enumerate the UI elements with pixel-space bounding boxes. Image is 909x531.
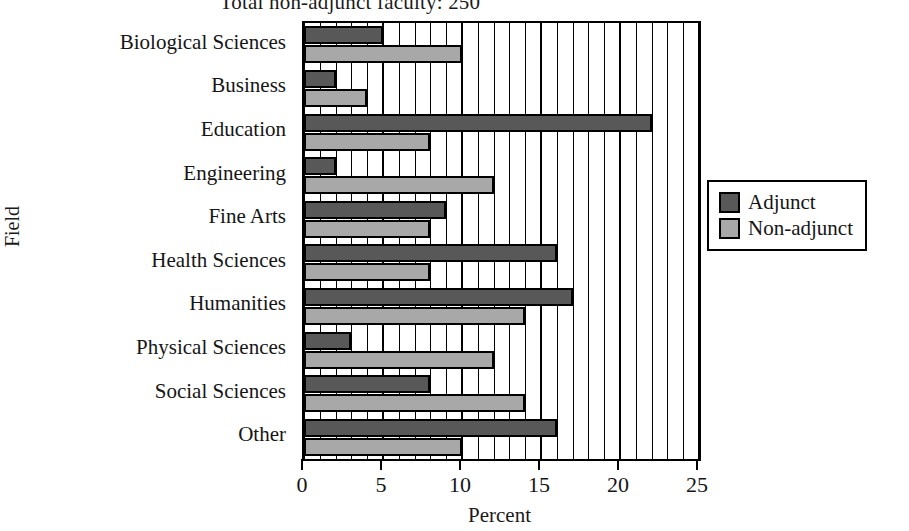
bar-non-adjunct [304, 307, 525, 325]
x-axis-tick-label: 5 [351, 472, 411, 498]
bar-adjunct [304, 114, 652, 132]
x-axis-tick-label: 25 [667, 472, 727, 498]
bar-non-adjunct [304, 394, 525, 412]
bar-adjunct [304, 332, 351, 350]
y-axis-tick-label: Other [30, 424, 286, 445]
bar-chart: Total non-adjunct faculty: 250 Field Bio… [0, 0, 909, 531]
bar-adjunct [304, 26, 383, 44]
x-axis-tick [696, 459, 698, 470]
x-axis-tick-label: 10 [430, 472, 490, 498]
bar-non-adjunct [304, 220, 430, 238]
bar-non-adjunct [304, 133, 430, 151]
y-axis-tick-label: Physical Sciences [30, 337, 286, 358]
y-axis-category-labels: Biological SciencesBusinessEducationEngi… [30, 21, 294, 457]
x-axis-tick-label: 0 [272, 472, 332, 498]
chart-title: Total non-adjunct faculty: 250 [0, 0, 700, 15]
y-axis-tick-label: Social Sciences [30, 381, 286, 402]
bar-non-adjunct [304, 176, 494, 194]
x-axis-title: Percent [302, 503, 697, 528]
y-axis-tick-label: Fine Arts [30, 206, 286, 227]
legend-label: Adjunct [748, 192, 816, 213]
legend-swatch-icon [719, 192, 740, 213]
bar-non-adjunct [304, 263, 430, 281]
x-axis: Percent 0510152025 [302, 459, 697, 519]
bar-non-adjunct [304, 351, 494, 369]
y-axis-tick-label: Humanities [30, 293, 286, 314]
y-axis-tick-label: Engineering [30, 163, 286, 184]
bar-adjunct [304, 288, 573, 306]
bar-adjunct [304, 419, 557, 437]
legend-item: Adjunct [719, 189, 853, 215]
bar-non-adjunct [304, 438, 462, 456]
bar-adjunct [304, 201, 446, 219]
legend-label: Non-adjunct [748, 218, 853, 239]
plot-area [302, 21, 701, 461]
bars-layer [304, 23, 699, 459]
bar-non-adjunct [304, 89, 367, 107]
y-axis-tick-label: Business [30, 75, 286, 96]
y-axis-title: Field [1, 197, 24, 257]
x-axis-tick [301, 459, 303, 470]
y-axis-tick-label: Education [30, 119, 286, 140]
bar-adjunct [304, 375, 430, 393]
x-axis-tick [459, 459, 461, 470]
bar-adjunct [304, 70, 336, 88]
x-axis-tick [617, 459, 619, 470]
x-axis-line [302, 459, 697, 461]
legend-item: Non-adjunct [719, 215, 853, 241]
bar-non-adjunct [304, 45, 462, 63]
legend-swatch-icon [719, 218, 740, 239]
legend: AdjunctNon-adjunct [707, 180, 867, 251]
y-axis-tick-label: Biological Sciences [30, 32, 286, 53]
bar-adjunct [304, 157, 336, 175]
x-axis-tick-label: 20 [588, 472, 648, 498]
y-axis-tick-label: Health Sciences [30, 250, 286, 271]
x-axis-tick-label: 15 [509, 472, 569, 498]
x-axis-tick [380, 459, 382, 470]
bar-adjunct [304, 244, 557, 262]
x-axis-tick [538, 459, 540, 470]
